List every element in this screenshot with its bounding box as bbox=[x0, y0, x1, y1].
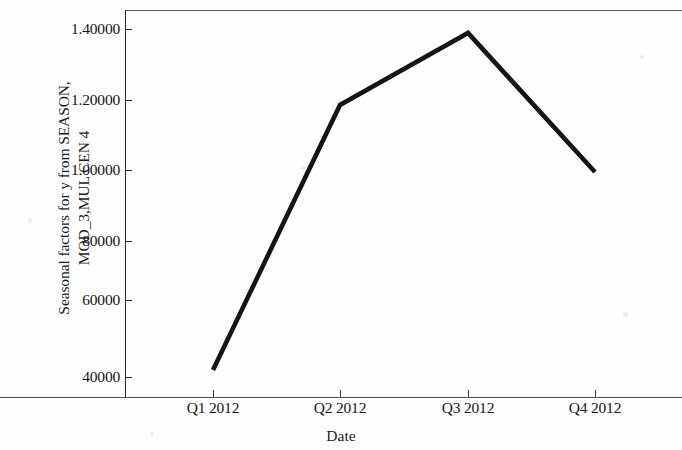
y-tick-mark bbox=[125, 100, 132, 101]
x-axis-line bbox=[0, 397, 682, 398]
y-axis-line bbox=[125, 10, 126, 398]
y-tick-label: 1.40000 bbox=[40, 21, 120, 37]
x-tick-mark bbox=[595, 390, 596, 397]
x-tick-mark bbox=[468, 390, 469, 397]
scan-speck bbox=[623, 312, 628, 317]
y-tick-label: 60000 bbox=[40, 292, 120, 308]
x-tick-label: Q3 2012 bbox=[408, 399, 528, 417]
x-tick-mark bbox=[340, 390, 341, 397]
series-polyline bbox=[213, 33, 595, 370]
x-tick-label: Q1 2012 bbox=[153, 399, 273, 417]
chart-figure: Seasonal factors for y from SEASON, MOD_… bbox=[0, 0, 682, 450]
x-tick-mark bbox=[213, 390, 214, 397]
x-tick-label: Q4 2012 bbox=[535, 399, 655, 417]
plot-top-border bbox=[125, 10, 682, 11]
scan-speck bbox=[150, 432, 154, 436]
scan-speck bbox=[28, 218, 32, 223]
scan-speck bbox=[640, 55, 644, 59]
y-tick-mark bbox=[125, 241, 132, 242]
y-tick-mark bbox=[125, 377, 132, 378]
x-axis-title: Date bbox=[0, 427, 682, 445]
y-tick-mark bbox=[125, 29, 132, 30]
y-tick-label: 40000 bbox=[40, 369, 120, 385]
y-tick-mark bbox=[125, 300, 132, 301]
x-tick-label: Q2 2012 bbox=[280, 399, 400, 417]
y-axis-tick-labels: 1.40000 1.20000 1.00000 80000 60000 4000… bbox=[40, 0, 120, 450]
y-tick-label: 1.00000 bbox=[40, 162, 120, 178]
y-tick-label: 80000 bbox=[40, 233, 120, 249]
y-tick-mark bbox=[125, 170, 132, 171]
y-tick-label: 1.20000 bbox=[40, 92, 120, 108]
scan-speck bbox=[301, 166, 306, 170]
